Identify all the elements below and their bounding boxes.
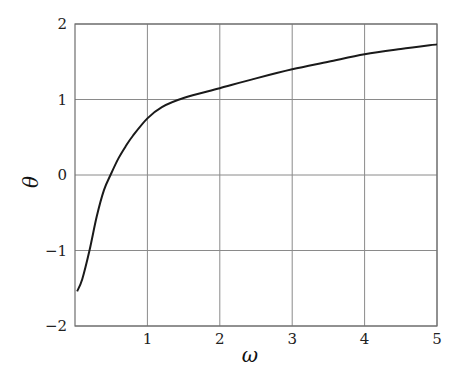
y-axis-label: θ [19,176,43,188]
x-tick-label: 2 [215,330,225,348]
data-line-theta [77,44,437,291]
grid-lines [75,24,437,326]
x-tick-label: 3 [287,330,297,348]
y-tick-labels: −2−1012 [45,15,67,335]
x-tick-label: 1 [143,330,153,348]
y-tick-label: −2 [45,317,67,335]
y-tick-label: −1 [45,242,67,260]
chart: 12345 −2−1012 ω θ [0,0,456,375]
x-tick-label: 4 [360,330,370,348]
y-tick-label: 0 [57,166,67,184]
x-tick-label: 5 [432,330,442,348]
x-tick-labels: 12345 [143,330,442,348]
x-axis-label: ω [242,343,258,367]
y-tick-label: 1 [57,91,67,109]
y-tick-label: 2 [57,15,67,33]
